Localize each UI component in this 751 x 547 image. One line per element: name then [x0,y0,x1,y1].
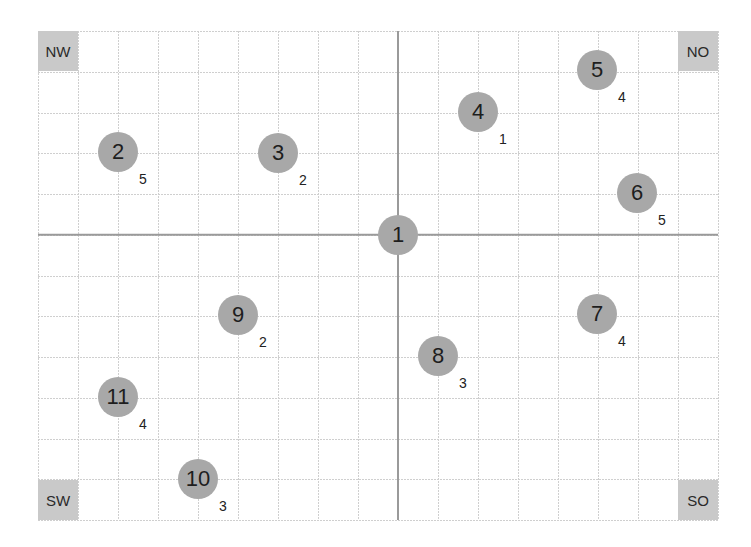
node-5-sub-label: 4 [618,89,626,105]
node-7-sub-label: 4 [618,333,626,349]
node-4[interactable]: 4 [458,92,498,132]
node-label: 8 [432,343,444,369]
corner-so-label: SO [687,492,709,509]
corner-no: NO [678,31,718,71]
node-3-sub-label: 2 [299,172,307,188]
node-7[interactable]: 7 [577,294,617,334]
node-8[interactable]: 8 [418,336,458,376]
compass-grid-diagram: NW NO SW SO 1 2 5 3 2 4 1 5 4 6 5 7 4 8 … [0,0,751,547]
corner-sw-label: SW [46,492,70,509]
node-label: 11 [107,384,130,410]
node-label: 7 [591,301,603,327]
node-label: 6 [631,180,643,206]
node-label: 2 [112,139,124,165]
node-8-sub-label: 3 [459,375,467,391]
node-11[interactable]: 11 [98,377,138,417]
corner-no-label: NO [687,43,710,60]
node-5[interactable]: 5 [577,50,617,90]
node-label: 1 [392,222,404,248]
node-label: 4 [472,99,484,125]
corner-sw: SW [38,480,78,520]
corner-nw-label: NW [46,43,71,60]
corner-so: SO [678,480,718,520]
node-1[interactable]: 1 [378,215,418,255]
node-10-sub-label: 3 [219,498,227,514]
node-2[interactable]: 2 [98,132,138,172]
node-label: 5 [591,57,603,83]
node-3[interactable]: 3 [258,133,298,173]
node-6[interactable]: 6 [617,173,657,213]
node-4-sub-label: 1 [499,131,507,147]
node-9-sub-label: 2 [259,334,267,350]
node-label: 9 [232,302,244,328]
node-10[interactable]: 10 [178,459,218,499]
corner-nw: NW [38,31,78,71]
node-9[interactable]: 9 [218,295,258,335]
grid-lines [0,0,751,547]
node-6-sub-label: 5 [658,212,666,228]
node-11-sub-label: 4 [139,416,147,432]
node-label: 10 [186,466,210,492]
node-2-sub-label: 5 [139,171,147,187]
node-label: 3 [272,140,284,166]
